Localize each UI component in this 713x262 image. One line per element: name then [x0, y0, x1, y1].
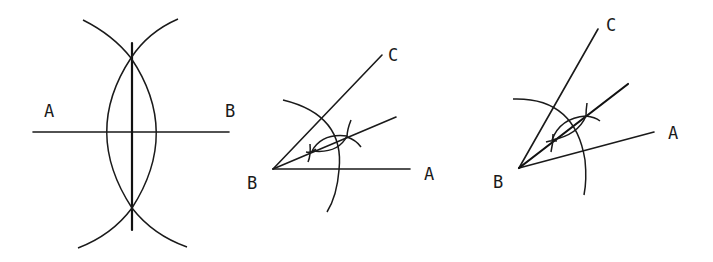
label-a: A	[44, 101, 54, 121]
label-c: C	[606, 15, 616, 35]
bottom-arc-left	[78, 208, 132, 248]
lens-arc-right	[131, 58, 156, 208]
ray-bc	[273, 55, 382, 169]
label-a: A	[424, 164, 434, 184]
top-arc-left	[83, 20, 131, 58]
angle-bisector-ray	[273, 117, 396, 169]
label-b-vertex: B	[247, 173, 257, 193]
label-c: C	[388, 45, 398, 65]
compass-arc	[283, 100, 340, 212]
top-arc-right	[131, 19, 178, 58]
label-b: B	[225, 101, 235, 121]
label-a: A	[668, 123, 678, 143]
lens-arc-left	[107, 58, 132, 208]
ray-bc	[519, 29, 598, 168]
figure-angle-bisector-2: C A B	[493, 15, 678, 195]
label-b-vertex: B	[493, 172, 503, 192]
diagram-canvas: A B C A B	[0, 0, 713, 262]
figure-angle-bisector-1: C A B	[247, 45, 434, 212]
ray-ba	[519, 132, 654, 168]
figure-perpendicular-bisector: A B	[33, 19, 235, 248]
geometry-constructions-diagram: A B C A B	[0, 0, 713, 262]
bottom-arc-right	[132, 208, 187, 247]
